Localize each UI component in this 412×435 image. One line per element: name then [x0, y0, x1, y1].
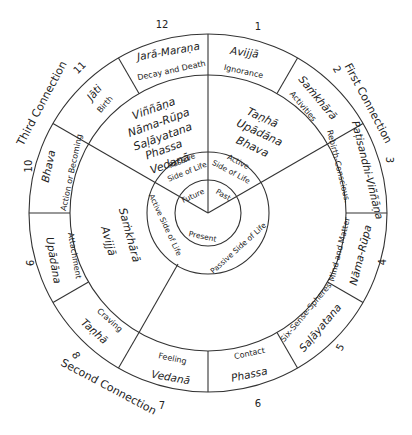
segment-number-6: 6	[255, 398, 261, 409]
segment-3-english: Rebirth-Conscious.	[325, 129, 352, 204]
segment-4-pali: Nāma-Rūpa	[347, 224, 374, 287]
present-factors-list: Taṇhā Upādāna Bhava	[234, 105, 285, 160]
segment-number-12: 12	[156, 19, 169, 30]
second-connection-label: Second Connection	[59, 356, 159, 417]
active-side-left: Active Side of Life	[147, 193, 184, 258]
segment-1-pali: Avijjā	[229, 44, 260, 60]
past-factors-list: Saṁkhārā Avijjā	[98, 206, 143, 263]
segment-number-4: 4	[377, 259, 388, 265]
segment-10-english: Action or Becoming	[59, 133, 84, 211]
segment-10-pali: Bhava	[39, 149, 58, 184]
past-factor-1: Saṁkhārā	[116, 206, 143, 263]
segment-number-9: 9	[24, 260, 35, 266]
segment-9-english: Attachment	[66, 232, 83, 280]
spokes	[89, 75, 328, 333]
past-factor-2: Avijjā	[98, 224, 119, 258]
segment-number-1: 1	[255, 21, 261, 32]
segment-number-11: 11	[71, 59, 88, 76]
future-label: Future	[180, 186, 206, 204]
segment-7-pali: Vedanā	[150, 368, 191, 387]
segment-12-pali: Jarā-Maraṇa	[134, 40, 200, 63]
passive-side-lower: Passive Side of Life	[209, 221, 269, 276]
segment-numbers: 1 2 3 4 5 6 7 8 9 10 11 12	[23, 19, 395, 411]
segment-11-english: Birth	[95, 94, 114, 115]
third-connection-label: Third Connection	[14, 59, 70, 149]
segment-number-10: 10	[23, 160, 34, 173]
segment-number-5: 5	[334, 342, 347, 353]
segment-9-pali: Upādāna	[44, 236, 64, 284]
segment-7-english: Feeling	[158, 351, 188, 366]
segment-number-2: 2	[331, 64, 344, 75]
dependent-origination-wheel: 1 2 3 4 5 6 7 8 9 10 11 12 First Connect…	[0, 0, 412, 435]
segment-1-english: Ignorance	[223, 63, 264, 80]
segment-12-english: Decay and Death	[137, 59, 207, 82]
segment-6-pali: Phassa	[230, 364, 268, 383]
segment-2-pali: Saṁkhārā	[296, 73, 339, 122]
segment-number-3: 3	[384, 157, 395, 163]
segment-4-english: Mind and Matter	[327, 216, 352, 283]
segment-number-7: 7	[159, 400, 165, 411]
segment-11-pali: Jāti	[83, 82, 104, 104]
